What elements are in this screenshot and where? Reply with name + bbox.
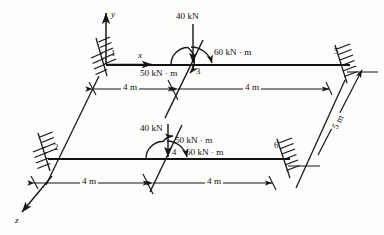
dimension-label-upper-right: 4 m [243,83,261,92]
moment-label-50-lower: 50 kN · m [175,136,213,145]
node-label-4: 4 [172,148,176,157]
axis-label-x: x [138,51,142,60]
node-label-2: 2 [54,143,58,152]
support-node-5 [335,44,358,83]
depth-edge-5-6 [296,80,345,188]
dimension-label-lower-left: 4 m [80,177,98,186]
dimension-label-lower-right: 4 m [205,177,223,186]
figure-canvas: y x z 1 2 3 4 5 6 40 kN 50 kN · m 60 kN … [0,0,384,235]
moment-label-50-upper: 50 kN · m [140,69,178,78]
node-label-6: 6 [274,141,278,150]
depth-member-3-4 [165,40,203,118]
z-axis [22,176,52,212]
node-label-1: 1 [111,49,115,58]
moment-label-60-lower: 60 kN · m [186,148,224,157]
moment-label-60-upper: 60 kN · m [214,48,252,57]
depth-edge-1-2 [46,76,99,185]
axis-label-z: z [15,216,19,225]
axis-label-y: y [111,10,115,19]
load-label-40kn-lower: 40 kN [140,124,163,133]
load-label-40kn-upper: 40 kN [176,12,199,21]
node-label-5: 5 [334,47,338,56]
moment-arc-50-lower [146,136,173,159]
frame-diagram-svg [0,0,384,235]
node-label-3: 3 [196,67,200,76]
dimension-label-upper-left: 4 m [121,83,139,92]
